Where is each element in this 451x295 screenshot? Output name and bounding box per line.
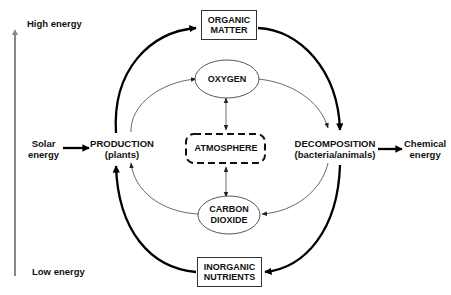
production-sub-label: (plants) [89,149,155,160]
high-energy-label: High energy [27,18,82,29]
decomposition-label: DECOMPOSITION [292,138,378,149]
organic-matter-label: ORGANIC MATTER [208,15,251,36]
decomposition-sub-label: (bacteria/animals) [292,149,378,160]
inorganic-nutrients-box: INORGANIC NUTRIENTS [197,257,262,287]
low-energy-label: Low energy [32,266,85,277]
solar-energy-label: Solar energy [28,138,59,160]
edge-decomposition-to-inorganic-nutrients [265,165,340,272]
oxygen-label: OXYGEN [200,74,254,85]
edge-organic-matter-to-decomposition [258,28,340,130]
edge-inorganic-nutrients-to-production [116,166,196,272]
carbon-dioxide-label: CARBON DIOXIDE [201,204,257,226]
organic-matter-box: ORGANIC MATTER [201,10,257,40]
inorganic-nutrients-label: INORGANIC NUTRIENTS [204,262,256,283]
chemical-energy-label: Chemical energy [404,138,446,160]
edge-carbon-dioxide-to-production [131,163,198,214]
edge-oxygen-to-decomposition [258,79,328,128]
edge-production-to-oxygen [131,79,196,132]
edge-decomposition-to-carbon-dioxide [262,163,328,214]
atmosphere-label: ATMOSPHERE [190,143,262,154]
production-label: PRODUCTION [89,138,155,149]
